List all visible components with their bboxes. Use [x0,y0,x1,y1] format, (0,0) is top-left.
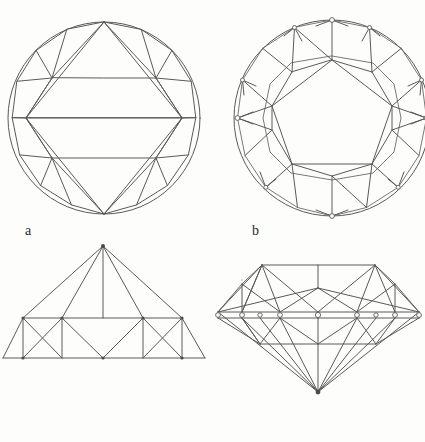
crown-profile-lines [3,244,205,360]
crown-facet-lines [12,22,196,214]
pavilion-facet-diagram [212,0,425,220]
full-stone-profile-diagram [212,240,425,400]
crown-facet-diagram [0,0,212,220]
stone-profile-lines [216,265,422,394]
caption-a: a [25,224,31,238]
pavilion-facet-lines [235,18,425,219]
crown-profile-diagram [0,240,212,365]
caption-b: b [252,224,259,238]
figure-page: a b [0,0,425,442]
